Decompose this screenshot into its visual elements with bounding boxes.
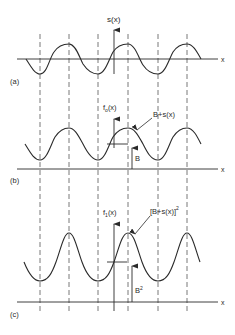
function-label-c: f1(x)	[103, 208, 117, 218]
diagram-canvas: s(x) x (a) B fo(x) B+s(x) x (b) B2 f1(x)…	[0, 0, 235, 335]
panel-label-c: (c)	[10, 310, 19, 319]
panel-b: B fo(x) B+s(x) x (b)	[10, 103, 225, 185]
function-label-a: s(x)	[107, 15, 121, 24]
axis-label-a: x	[221, 56, 225, 63]
offset-label-b: B	[135, 154, 140, 163]
panel-label-a: (a)	[10, 77, 20, 86]
curve-pointer-c	[135, 216, 150, 234]
curve-label-b: B+s(x)	[153, 110, 175, 119]
squared-curve-c	[24, 233, 200, 281]
axis-label-c: x	[221, 299, 225, 306]
panel-label-b: (b)	[10, 176, 20, 185]
panel-a: s(x) x (a)	[10, 15, 225, 86]
curve-pointer-b	[137, 118, 152, 130]
curve-label-c: [B+s(x)]2	[150, 205, 179, 216]
axis-label-b: x	[221, 166, 225, 173]
function-label-b: fo(x)	[103, 103, 117, 113]
offset-label-c: B2	[135, 285, 143, 295]
dashed-guides	[40, 34, 187, 312]
panel-c: B2 f1(x) [B+s(x)]2 x (c)	[10, 205, 225, 319]
